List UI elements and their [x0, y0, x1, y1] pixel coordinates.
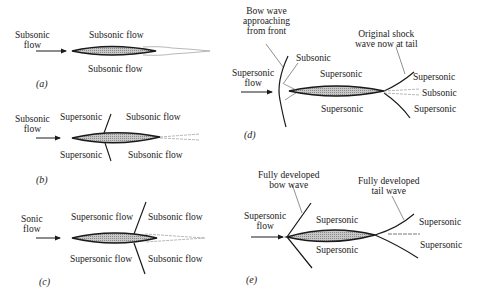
label-upper-left-c: Supersonic flow	[71, 212, 133, 222]
airfoil	[287, 230, 375, 242]
leader-subsonic	[283, 63, 298, 84]
tail-shock-upper	[384, 72, 414, 91]
leader-bow	[266, 44, 283, 67]
note-bow-e: Fully developedbow wave	[258, 170, 319, 190]
inflow-label-e: Supersonicflow	[244, 211, 286, 231]
label-lower-d: Supersonic	[321, 104, 363, 114]
label-lower-right-b: Subsonic flow	[128, 150, 183, 160]
label-upper-right-c: Subsonic flow	[148, 212, 203, 222]
shock-wave-lower	[134, 243, 145, 274]
label-tail-upper-e: Supersonic	[419, 217, 461, 227]
note-tail-d: Original shockwave now at tail	[355, 29, 418, 49]
label-upper-d: Supersonic	[320, 69, 362, 79]
leader-tail	[392, 196, 404, 220]
inflow-label-b: Subsonicflow	[15, 114, 50, 134]
shock-wave-lower	[105, 143, 111, 161]
airfoil	[72, 47, 156, 56]
label-lower-right-c: Subsonic flow	[148, 254, 203, 264]
wake	[384, 89, 420, 95]
caption-d: (d)	[244, 129, 256, 140]
sonic-line-upper	[284, 84, 296, 90]
tail-wave-lower	[375, 235, 418, 258]
tail-shock-lower	[384, 93, 410, 118]
label-lower-a: Subsonic flow	[88, 64, 143, 74]
label-tail-upper-d: Supersonic	[413, 72, 455, 82]
caption-c: (c)	[39, 276, 50, 287]
sonic-line-lower	[285, 93, 296, 100]
label-upper-right-b: Subsonic flow	[126, 112, 181, 122]
shock-wave-upper	[134, 202, 146, 234]
label-front-subsonic-d: Subsonic	[296, 53, 331, 63]
label-lower-left-c: Supersonic flow	[70, 254, 132, 264]
inflow-label-d: Supersonicflow	[232, 68, 274, 88]
wake	[160, 134, 200, 140]
label-upper-e: Supersonic	[316, 215, 358, 225]
caption-b: (b)	[36, 174, 48, 185]
leader-tail	[396, 47, 405, 74]
airfoil	[289, 86, 384, 96]
label-upper-left-b: Supersonic	[60, 112, 102, 122]
airfoil	[72, 133, 160, 143]
note-tail-e: Fully developedtail wave	[358, 176, 419, 196]
panel-a	[36, 47, 210, 56]
bow-wave	[279, 56, 288, 127]
label-tail-mid-d: Subsonic	[422, 88, 457, 98]
label-tail-lower-d: Supersonic	[414, 104, 456, 114]
tail-wave-upper	[375, 214, 414, 235]
label-tail-lower-e: Supersonic	[420, 240, 462, 250]
label-lower-left-b: Supersonic	[60, 150, 102, 160]
inflow-label-a: Subsonicflow	[15, 30, 50, 50]
shock-wave-upper	[104, 114, 111, 133]
note-bow-d: Bow waveapproachingfrom front	[243, 6, 290, 36]
label-upper-a: Subsonic flow	[89, 30, 144, 40]
label-lower-e: Supersonic	[316, 245, 358, 255]
caption-a: (a)	[36, 78, 48, 89]
inflow-label-c: Sonicflow	[21, 214, 43, 234]
caption-e: (e)	[246, 274, 257, 285]
airfoil	[72, 233, 157, 243]
